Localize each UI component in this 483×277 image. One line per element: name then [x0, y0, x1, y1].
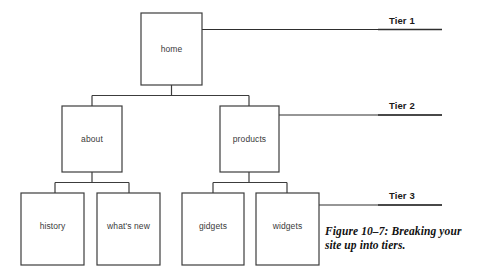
node-home[interactable]: home: [141, 13, 202, 85]
figure-container: Tier 1 Tier 2 Tier 3 home about products: [0, 0, 483, 277]
edge-group-home-to-tier2: [92, 85, 249, 106]
tier-1-label: Tier 1: [389, 15, 415, 26]
tier-1-callout: Tier 1: [184, 15, 442, 30]
edge-group-products-to-tier3: [213, 172, 287, 193]
tier-2-callout: Tier 2: [260, 100, 442, 115]
node-home-label: home: [161, 44, 183, 54]
figure-caption-line-1: Figure 10–7: Breaking your: [325, 225, 461, 237]
node-whats-new-label: what's new: [106, 221, 151, 231]
tier-3-label: Tier 3: [389, 190, 415, 201]
node-products-label: products: [233, 134, 266, 144]
node-history-label: history: [40, 221, 66, 231]
node-whats-new[interactable]: what's new: [97, 193, 160, 265]
figure-caption-line-2: site up into tiers.: [325, 239, 406, 251]
tier-3-callout: Tier 3: [300, 190, 442, 205]
tier-2-label: Tier 2: [389, 100, 415, 111]
node-history[interactable]: history: [21, 193, 84, 265]
node-about[interactable]: about: [62, 106, 122, 172]
node-gidgets-label: gidgets: [199, 221, 227, 231]
node-gidgets[interactable]: gidgets: [182, 193, 244, 265]
figure-caption: Figure 10–7: Breaking your site up into …: [325, 224, 480, 252]
node-about-label: about: [81, 134, 103, 144]
node-widgets[interactable]: widgets: [256, 193, 319, 265]
node-widgets-label: widgets: [272, 221, 303, 231]
node-products[interactable]: products: [220, 106, 279, 172]
edge-group-about-to-tier3: [55, 172, 129, 193]
